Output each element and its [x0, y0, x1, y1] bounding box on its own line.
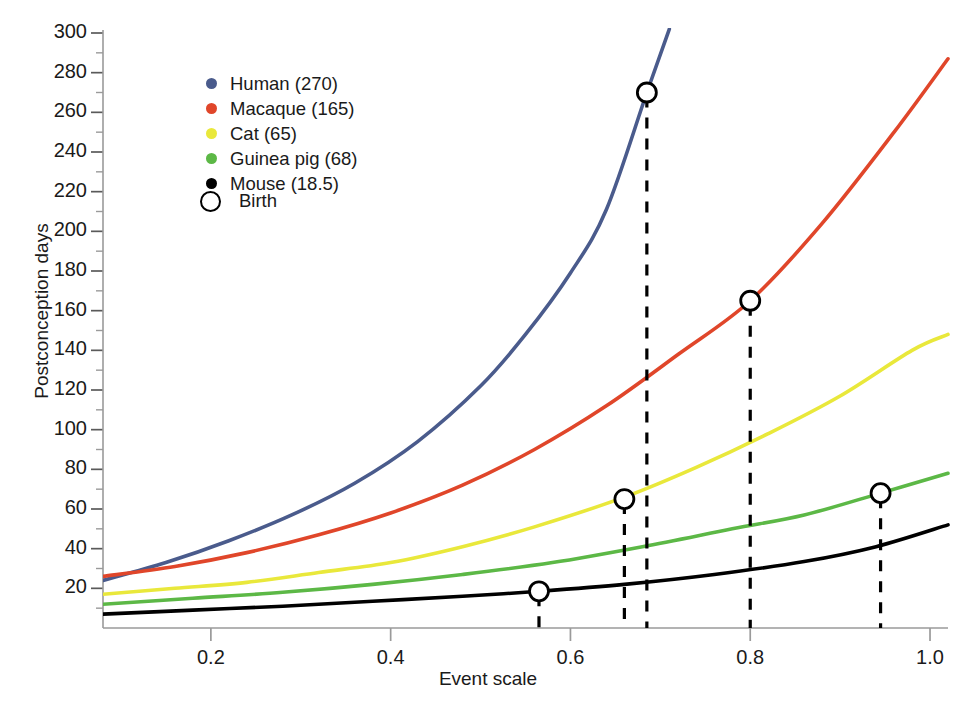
x-tick-label: 1.0	[895, 646, 965, 669]
chart-container: 2040608010012014016018020022024026028030…	[0, 0, 976, 706]
legend-dot-icon	[206, 153, 217, 164]
y-tick-label: 300	[23, 20, 87, 43]
birth-legend: Birth	[200, 190, 277, 212]
x-tick-label: 0.8	[715, 646, 785, 669]
birth-markers	[529, 83, 890, 601]
legend-dot-icon	[206, 178, 217, 189]
x-tick-label: 0.6	[535, 646, 605, 669]
y-tick-label: 220	[23, 179, 87, 202]
legend-item-macaque: Macaque (165)	[206, 97, 358, 120]
legend-item-human: Human (270)	[206, 72, 358, 95]
y-axis-title: Postconception days	[31, 211, 53, 411]
y-axis-major-ticks	[91, 33, 103, 588]
legend-item-cat: Cat (65)	[206, 122, 358, 145]
legend-item-guinea-pig: Guinea pig (68)	[206, 147, 358, 170]
birth-marker-cat	[615, 490, 634, 509]
birth-legend-label: Birth	[239, 190, 277, 212]
series-legend: Human (270)Macaque (165)Cat (65)Guinea p…	[206, 72, 358, 197]
birth-drop-lines	[539, 97, 881, 629]
legend-label: Cat (65)	[230, 123, 297, 145]
birth-circle-icon	[200, 191, 221, 212]
series-line-human	[103, 29, 669, 580]
legend-dot-icon	[206, 103, 217, 114]
legend-label: Macaque (165)	[230, 98, 354, 120]
legend-label: Human (270)	[230, 73, 338, 95]
y-tick-label: 20	[23, 575, 87, 598]
y-tick-label: 80	[23, 456, 87, 479]
x-axis-ticks	[211, 628, 930, 641]
birth-marker-macaque	[741, 291, 760, 310]
legend-dot-icon	[206, 128, 217, 139]
birth-marker-mouse	[529, 582, 548, 601]
y-tick-label: 60	[23, 496, 87, 519]
legend-dot-icon	[206, 78, 217, 89]
birth-marker-human	[637, 83, 656, 102]
y-tick-label: 100	[23, 417, 87, 440]
x-tick-label: 0.4	[356, 646, 426, 669]
chart-plot-area	[0, 0, 976, 706]
y-tick-label: 280	[23, 60, 87, 83]
y-tick-label: 260	[23, 99, 87, 122]
y-tick-label: 40	[23, 536, 87, 559]
y-tick-label: 240	[23, 139, 87, 162]
legend-label: Guinea pig (68)	[230, 148, 358, 170]
y-axis-minor-ticks	[96, 53, 103, 608]
birth-marker-guinea-pig	[871, 484, 890, 503]
x-axis-title: Event scale	[0, 668, 976, 690]
series-line-mouse	[103, 525, 948, 614]
x-tick-label: 0.2	[176, 646, 246, 669]
